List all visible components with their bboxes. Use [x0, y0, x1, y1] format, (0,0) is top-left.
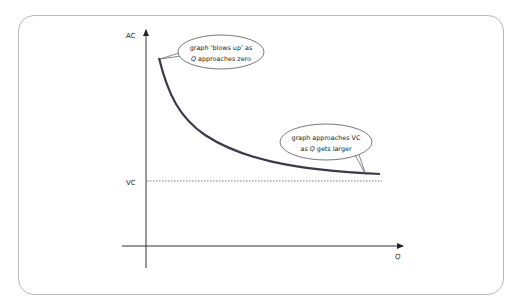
svg-text:graph ‘blows up’ as: graph ‘blows up’ as: [190, 44, 253, 52]
callout-blows-up: graph ‘blows up’ as Q approaches zero: [160, 35, 264, 69]
svg-text:graph approaches VC: graph approaches VC: [292, 134, 361, 142]
y-axis-label: AC: [126, 32, 136, 40]
average-cost-diagram: AC VC Q graph ‘blows up’ as Q approaches…: [0, 0, 525, 307]
callout-approaches-vc: graph approaches VC as Q gets larger: [280, 124, 372, 175]
svg-text:as Q gets larger: as Q gets larger: [300, 145, 351, 153]
vc-label: VC: [126, 179, 136, 187]
x-axis-label: Q: [395, 253, 401, 261]
svg-text:Q approaches zero: Q approaches zero: [191, 55, 251, 63]
